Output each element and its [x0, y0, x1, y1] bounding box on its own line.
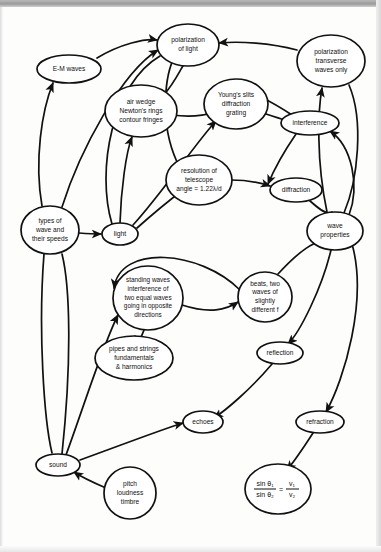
node-label-refraction: refraction	[306, 418, 334, 425]
node-pipes[interactable]: pipes and stringsfundamentals& harmonics	[95, 336, 173, 380]
node-youngs_slits[interactable]: Young's slitsdiffractiongrating	[204, 79, 268, 129]
node-label-pipes: fundamentals	[114, 354, 154, 361]
node-label-resolution: resolution of	[181, 167, 217, 174]
node-label-pitch: loudness	[117, 489, 144, 496]
node-wave_props[interactable]: waveproperties	[307, 212, 363, 250]
edge-beats-to-wave_props	[278, 242, 322, 274]
node-label-pipes: & harmonics	[116, 363, 153, 370]
edge-reflection-to-echoes	[214, 364, 272, 418]
formula-part: v₁	[289, 480, 296, 487]
edge-wave_props-to-refraction	[326, 244, 357, 412]
edge-wave_props-to-interference	[330, 131, 354, 215]
edge-diffraction-to-wave_props	[309, 200, 332, 213]
edge-light-to-air_wedge	[120, 137, 132, 223]
edge-sound-to-echoes	[80, 423, 183, 460]
edge-interference-to-diffraction	[268, 134, 296, 184]
node-echoes[interactable]: echoes	[183, 411, 223, 433]
node-light[interactable]: light	[102, 223, 138, 245]
node-label-interference: interference	[293, 119, 328, 126]
nodes-layer: E-M wavespolarizationof lightpolarizatio…	[21, 24, 365, 519]
node-label-types_wave: wave and	[35, 226, 65, 233]
node-label-em_waves: E-M waves	[53, 65, 86, 72]
concept-map-canvas: E-M wavespolarizationof lightpolarizatio…	[0, 0, 381, 552]
node-label-light: light	[114, 230, 127, 238]
node-label-beats: different f	[252, 306, 279, 313]
edge-types_wave-to-sound	[42, 254, 52, 453]
edge-polar_trans-to-polar_light	[219, 42, 297, 50]
edge-light-to-polar_light	[106, 56, 160, 224]
scanned-page: E-M wavespolarizationof lightpolarizatio…	[0, 0, 381, 552]
node-reflection[interactable]: reflection	[257, 342, 303, 364]
edge-refraction-to-snell	[287, 433, 313, 470]
node-label-air_wedge: Newton's rings	[119, 107, 163, 115]
node-label-beats: beats, two	[250, 280, 280, 287]
edge-types_wave-to-em_waves	[39, 83, 53, 206]
node-pitch[interactable]: pitchloudnesstimbre	[104, 467, 156, 519]
node-label-polar_trans: waves only	[314, 66, 348, 74]
node-interference[interactable]: interference	[281, 111, 339, 135]
node-label-reflection: reflection	[267, 349, 294, 356]
node-em_waves[interactable]: E-M waves	[37, 55, 101, 83]
node-label-air_wedge: contour fringes	[119, 116, 163, 124]
edge-pitch-to-sound	[74, 472, 106, 488]
node-label-types_wave: types of	[38, 217, 61, 225]
node-label-standing: two equal waves	[124, 294, 171, 302]
formula-part: v₂	[289, 491, 296, 498]
node-label-pitch: pitch	[123, 480, 137, 488]
node-diffraction[interactable]: diffraction	[270, 178, 322, 202]
node-label-standing: interference of	[128, 285, 169, 292]
node-label-standing: standing waves	[126, 276, 170, 284]
formula-part: =	[279, 486, 283, 493]
node-label-standing: directions	[134, 311, 161, 318]
node-label-echoes: echoes	[192, 418, 214, 425]
edge-sound-to-standing	[66, 315, 118, 455]
edge-em_waves-to-polar_light	[97, 40, 157, 58]
node-refraction[interactable]: refraction	[296, 411, 344, 433]
node-beats[interactable]: beats, twowaves ofslightlydifferent f	[238, 272, 292, 322]
edge-standing-to-beats	[182, 302, 238, 310]
node-label-youngs_slits: grating	[226, 109, 246, 117]
edge-resolution-to-diffraction	[231, 180, 270, 186]
node-label-wave_props: wave	[326, 222, 343, 229]
node-sound[interactable]: sound	[36, 454, 80, 476]
node-label-diffraction: diffraction	[282, 186, 311, 193]
node-polar_trans[interactable]: polarizationtransversewaves only	[297, 35, 365, 87]
node-label-polar_trans: transverse	[316, 57, 347, 64]
node-snell[interactable]: sin θ₁sin θ₂=v₁v₂	[245, 464, 311, 514]
formula-part: sin θ₂	[256, 491, 274, 498]
formula-part: sin θ₁	[256, 480, 274, 487]
node-standing[interactable]: standing wavesinterference oftwo equal w…	[113, 266, 183, 330]
edge-sound-to-types_wave	[62, 254, 69, 454]
node-label-resolution: angle = 1.22λ/d	[176, 185, 222, 193]
node-label-polar_light: polarization	[171, 36, 205, 44]
edge-wave_props-to-reflection	[288, 250, 331, 344]
node-label-beats: slightly	[255, 297, 276, 305]
node-types_wave[interactable]: types ofwave andtheir speeds	[21, 206, 79, 254]
node-label-wave_props: properties	[320, 231, 350, 239]
node-label-pitch: timbre	[121, 498, 140, 505]
node-label-youngs_slits: diffraction	[222, 100, 251, 107]
node-air_wedge[interactable]: air wedgeNewton's ringscontour fringes	[105, 85, 177, 137]
node-label-types_wave: their speeds	[32, 235, 69, 243]
node-label-sound: sound	[49, 461, 67, 468]
node-label-polar_trans: polarization	[314, 48, 348, 56]
node-label-resolution: telescope	[185, 176, 214, 184]
node-label-pipes: pipes and strings	[109, 345, 160, 353]
node-label-air_wedge: air wedge	[127, 98, 156, 106]
node-label-beats: waves of	[251, 288, 278, 295]
node-label-polar_light: of light	[178, 45, 198, 53]
edge-types_wave-to-light	[79, 233, 101, 234]
node-label-standing: going in opposite	[124, 302, 173, 310]
node-polar_light[interactable]: polarizationof light	[157, 24, 219, 66]
node-resolution[interactable]: resolution oftelescopeangle = 1.22λ/d	[166, 155, 232, 205]
node-label-youngs_slits: Young's slits	[218, 91, 255, 99]
